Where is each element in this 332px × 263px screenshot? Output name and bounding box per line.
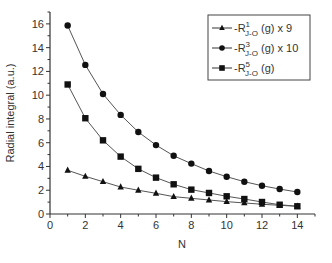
x-axis-label: N — [178, 238, 186, 250]
square-marker — [64, 81, 70, 87]
y-tick-label: 12 — [32, 65, 44, 77]
x-tick-label: 8 — [188, 219, 194, 231]
x-tick-label: 10 — [221, 219, 233, 231]
circle-marker — [64, 22, 70, 28]
square-marker — [241, 196, 247, 202]
x-tick-label: 12 — [256, 219, 268, 231]
square-marker — [117, 153, 123, 159]
y-tick-label: 0 — [38, 208, 44, 220]
x-tick-label: 14 — [291, 219, 303, 231]
legend: -R1J-O (g) x 9-R3J-O (g) x 10-R5J-O (g) — [208, 15, 310, 80]
y-tick-label: 8 — [38, 113, 44, 125]
y-tick-label: 4 — [38, 160, 44, 172]
circle-marker — [153, 142, 159, 148]
y-tick-label: 10 — [32, 89, 44, 101]
circle-marker — [294, 189, 300, 195]
circle-marker — [135, 129, 141, 135]
y-axis-label: Radial integral (a.u.) — [4, 63, 16, 162]
circle-marker — [276, 186, 282, 192]
circle-marker — [170, 153, 176, 159]
triangle-marker — [64, 167, 70, 173]
circle-marker — [259, 183, 265, 189]
square-marker — [259, 199, 265, 205]
square-marker — [223, 193, 229, 199]
square-marker — [170, 181, 176, 187]
square-marker — [135, 166, 141, 172]
y-tick-label: 6 — [38, 137, 44, 149]
square-marker — [276, 202, 282, 208]
square-marker — [82, 115, 88, 121]
circle-marker — [223, 173, 229, 179]
x-tick-label: 2 — [82, 219, 88, 231]
x-tick-label: 0 — [47, 219, 53, 231]
radial-integral-chart: 024681012140246810121416NRadial integral… — [0, 0, 332, 263]
series-square — [64, 81, 300, 209]
circle-marker — [117, 112, 123, 118]
x-tick-label: 4 — [118, 219, 124, 231]
circle-marker — [241, 178, 247, 184]
circle-marker — [219, 45, 225, 51]
circle-marker — [82, 62, 88, 68]
y-tick-label: 2 — [38, 184, 44, 196]
square-marker — [100, 137, 106, 143]
square-marker — [219, 65, 225, 71]
square-marker — [206, 190, 212, 196]
y-tick-label: 16 — [32, 18, 44, 30]
x-tick-label: 6 — [153, 219, 159, 231]
circle-marker — [206, 168, 212, 174]
square-marker — [153, 174, 159, 180]
square-marker — [188, 186, 194, 192]
circle-marker — [100, 91, 106, 97]
circle-marker — [188, 160, 194, 166]
square-marker — [294, 203, 300, 209]
y-tick-label: 14 — [32, 42, 44, 54]
